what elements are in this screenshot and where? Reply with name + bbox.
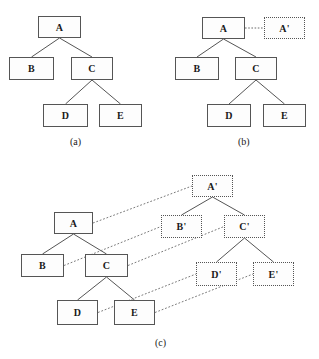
- node-c-B: B: [21, 254, 64, 277]
- edge-c-Cp-Dp: [217, 238, 245, 262]
- node-c-Dp: D': [196, 262, 237, 286]
- node-c-C: C: [85, 254, 128, 277]
- edge-layer: [0, 0, 319, 359]
- node-a-C: C: [71, 57, 113, 80]
- edge-c-Ap-Cp: [213, 197, 245, 215]
- panel-caption-c: (c): [155, 337, 166, 348]
- edge-b-C-E: [256, 80, 285, 104]
- node-a-B: B: [9, 57, 54, 80]
- edge-b-C-D: [229, 80, 256, 104]
- edge-a-C-E: [92, 80, 121, 104]
- edge-c-A-B: [43, 234, 74, 254]
- node-a-D: D: [43, 104, 88, 127]
- node-b-A: A: [202, 17, 245, 39]
- node-c-Bp: B': [161, 215, 202, 238]
- edge-c-Cp-Ep: [245, 238, 274, 262]
- node-c-A: A: [54, 212, 93, 234]
- panel-caption-a: (a): [70, 136, 81, 147]
- node-c-D: D: [57, 300, 98, 325]
- node-a-A: A: [38, 16, 81, 38]
- edge-c-C-E: [107, 277, 135, 300]
- node-c-Ap: A': [192, 175, 233, 197]
- edge-b-A-C: [224, 39, 257, 57]
- edge-c-Ap-Bp: [182, 197, 213, 215]
- node-c-Ep: E': [253, 262, 294, 286]
- edge-a-C-D: [66, 80, 93, 104]
- edge-a-A-C: [60, 38, 93, 57]
- edge-b-A-B: [197, 39, 224, 57]
- node-c-E: E: [114, 300, 155, 325]
- node-b-E: E: [263, 104, 306, 127]
- node-b-B: B: [175, 57, 219, 80]
- edge-c-C-D: [78, 277, 107, 300]
- node-a-E: E: [99, 104, 142, 127]
- panel-caption-b: (b): [238, 136, 250, 147]
- node-b-D: D: [207, 104, 251, 127]
- node-c-Cp: C': [224, 215, 265, 238]
- node-b-C: C: [235, 57, 277, 80]
- node-b-Ap: A': [264, 17, 305, 39]
- tree-copy-diagram: ABCDEAA'BCDEABCDEA'B'C'D'E' (a)(b)(c): [0, 0, 319, 359]
- edge-c-A-C: [74, 234, 107, 254]
- edge-a-A-B: [32, 38, 60, 57]
